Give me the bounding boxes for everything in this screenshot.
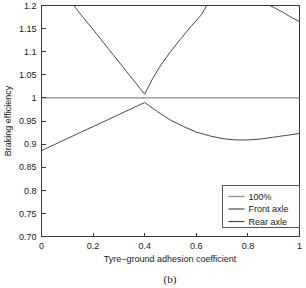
legend-label: Front axle: [249, 204, 289, 214]
x-tick-label: 0.4: [138, 241, 151, 251]
y-tick-label: 0.95: [19, 116, 37, 126]
y-tick-label: 0.75: [19, 209, 37, 219]
y-tick-label: 1: [31, 93, 36, 103]
x-tick-label: 0.8: [242, 241, 255, 251]
y-tick-label: 0.9: [24, 139, 37, 149]
x-tick-label: 0.2: [87, 241, 100, 251]
chart-figure: 0.700.750.80.850.90.9511.051.11.151.200.…: [0, 0, 306, 288]
x-tick-label: 0: [39, 241, 44, 251]
x-axis-label: Tyre−ground adhesion coefficient: [104, 254, 237, 264]
x-tick-label: 0.6: [190, 241, 203, 251]
figure-caption: (b): [164, 273, 177, 286]
legend-label: 100%: [249, 192, 272, 202]
chart-plot-area: 0.700.750.80.850.90.9511.051.11.151.200.…: [0, 0, 306, 288]
y-tick-label: 0.85: [19, 162, 37, 172]
chart-legend: 100%Front axleRear axle: [223, 186, 300, 228]
series-line-rear-axle: [42, 103, 300, 151]
y-tick-label: 0.70: [19, 232, 37, 242]
series-layer: [42, 6, 300, 151]
y-tick-label: 1.15: [19, 24, 37, 34]
y-tick-label: 0.8: [24, 186, 37, 196]
legend-label: Rear axle: [249, 217, 288, 227]
y-axis-label: Braking efficiency: [3, 85, 13, 156]
y-tick-label: 1.1: [24, 47, 37, 57]
series-line-front-axle: [74, 6, 300, 95]
y-tick-label: 1.2: [24, 1, 37, 11]
y-tick-label: 1.05: [19, 70, 37, 80]
x-tick-label: 1: [297, 241, 302, 251]
